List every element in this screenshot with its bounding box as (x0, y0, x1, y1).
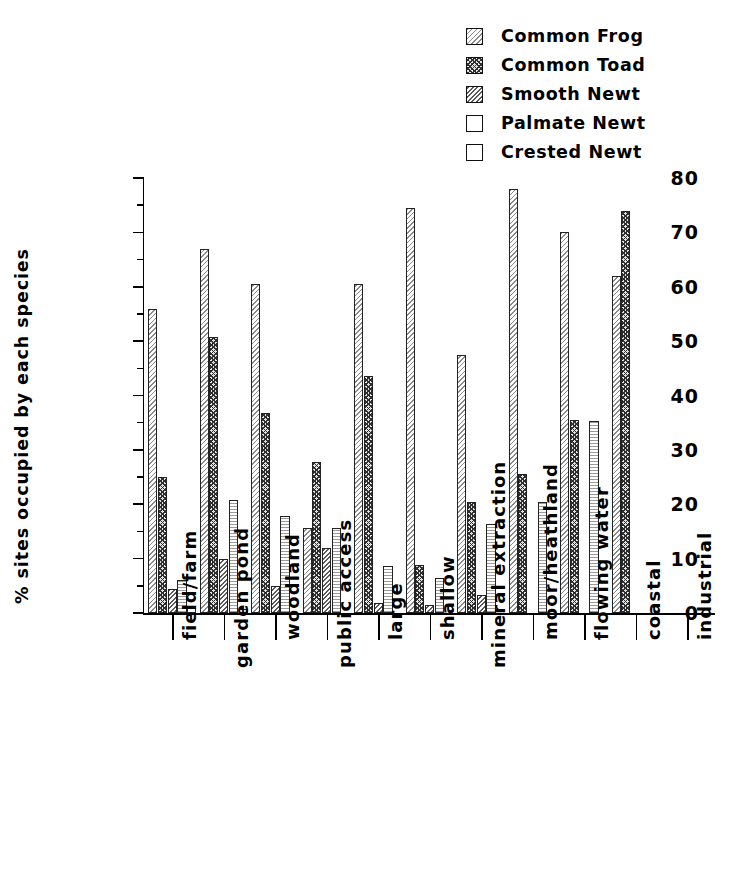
y-axis-minor-tick (137, 531, 144, 533)
y-axis-tick-label: 20 (671, 493, 699, 515)
y-axis-major-tick (133, 286, 144, 288)
x-axis-tick (275, 614, 277, 640)
y-axis-major-tick (133, 558, 144, 560)
bar (560, 232, 569, 613)
legend-item-label: Palmate Newt (501, 115, 646, 133)
bar (374, 603, 383, 613)
x-axis-tick (481, 614, 483, 640)
bar (200, 249, 209, 613)
bar (261, 413, 270, 613)
legend-swatch-icon (466, 144, 483, 161)
legend-item[interactable]: Common Toad (466, 51, 726, 80)
legend-swatch-icon (466, 57, 483, 74)
bar (322, 548, 331, 613)
chart-figure: Common FrogCommon ToadSmooth NewtPalmate… (0, 0, 737, 896)
bar (509, 189, 518, 613)
legend-item[interactable]: Crested Newt (466, 138, 726, 167)
bar (364, 376, 373, 613)
y-axis-major-tick (133, 232, 144, 234)
x-axis-label: public access (336, 519, 354, 668)
bar (303, 528, 312, 613)
y-axis-major-tick (133, 177, 144, 179)
legend-item[interactable]: Common Frog (466, 22, 726, 51)
bar (271, 586, 280, 613)
bar (612, 276, 621, 613)
bar (158, 477, 167, 613)
x-axis-line (143, 613, 715, 615)
legend-item-label: Smooth Newt (501, 86, 640, 104)
y-axis-minor-tick (137, 259, 144, 261)
y-axis-tick-label: 40 (671, 385, 699, 407)
bar (621, 211, 630, 613)
bar (457, 355, 466, 613)
bar (467, 502, 476, 613)
y-axis-tick-label: 50 (671, 330, 699, 352)
x-axis-label: flowing water (593, 486, 611, 640)
x-axis-tick (378, 614, 380, 640)
x-axis-tick (224, 614, 226, 640)
legend-item[interactable]: Smooth Newt (466, 80, 726, 109)
y-axis-tick-label: 30 (671, 439, 699, 461)
bar (251, 284, 260, 613)
bar (219, 559, 228, 613)
y-axis-major-tick (133, 503, 144, 505)
plot-area: 01020304050607080 (144, 178, 714, 613)
x-axis-label: field/farm (181, 530, 199, 640)
x-axis-label: mineral extraction (490, 461, 508, 668)
bar (406, 208, 415, 613)
legend-swatch-icon (466, 86, 483, 103)
bar (415, 565, 424, 613)
y-axis-minor-tick (137, 585, 144, 587)
x-axis-label: woodland (284, 533, 302, 640)
bar (168, 589, 177, 613)
x-axis-tick (687, 614, 689, 640)
bar (477, 595, 486, 613)
bar (312, 462, 321, 613)
y-axis-tick-label: 70 (671, 221, 699, 243)
x-axis-tick (430, 614, 432, 640)
y-axis-tick-label: 60 (671, 276, 699, 298)
x-axis-tick (172, 614, 174, 640)
bar (570, 420, 579, 613)
bar (209, 337, 218, 613)
x-axis-label: coastal (645, 559, 663, 640)
chart-legend: Common FrogCommon ToadSmooth NewtPalmate… (466, 22, 726, 167)
legend-swatch-icon (466, 28, 483, 45)
x-axis-tick (327, 614, 329, 640)
x-axis-tick (636, 614, 638, 640)
y-axis-major-tick (133, 395, 144, 397)
bar (354, 284, 363, 613)
x-axis-label: shallow (439, 555, 457, 640)
x-axis-tick (584, 614, 586, 640)
x-axis-label: large (387, 582, 405, 640)
x-axis-label: moor/heathland (542, 463, 560, 640)
x-axis-label: garden pond (233, 527, 251, 668)
x-axis-tick (533, 614, 535, 640)
y-axis-minor-tick (137, 476, 144, 478)
bar (518, 474, 527, 613)
y-axis-minor-tick (137, 204, 144, 206)
y-axis-minor-tick (137, 313, 144, 315)
y-axis-major-tick (133, 340, 144, 342)
legend-item-label: Common Frog (501, 28, 644, 46)
y-axis-major-tick (133, 612, 144, 614)
y-axis-major-tick (133, 449, 144, 451)
legend-item-label: Crested Newt (501, 144, 642, 162)
y-axis-minor-tick (137, 422, 144, 424)
x-axis-label: industrial (696, 532, 714, 640)
y-axis-minor-tick (137, 368, 144, 370)
legend-item-label: Common Toad (501, 57, 645, 75)
bar (148, 309, 157, 614)
y-axis-title: % sites occupied by each species (12, 248, 32, 604)
y-axis-tick-label: 80 (671, 167, 699, 189)
legend-item[interactable]: Palmate Newt (466, 109, 726, 138)
legend-swatch-icon (466, 115, 483, 132)
bar (425, 605, 434, 613)
